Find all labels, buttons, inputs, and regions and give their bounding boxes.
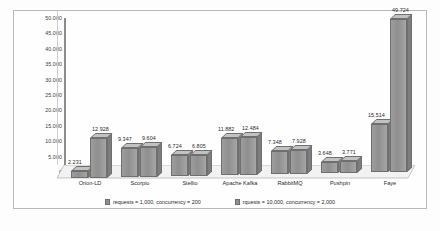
bar-side-face	[307, 145, 312, 174]
bar-group: 6.7246.805	[165, 18, 215, 172]
bar-2	[390, 19, 407, 172]
bar-group: 7.3487.928	[265, 18, 315, 172]
bar-value-label: 9.347	[118, 136, 132, 142]
bar-wrapper: 6.805	[190, 155, 207, 176]
bar-value-label: 2.231	[68, 159, 82, 165]
bar-value-label: 12.484	[242, 125, 259, 131]
bar-group: 15.51449.724	[365, 18, 415, 172]
bar-2	[190, 155, 207, 176]
y-axis: 50.00045.00040.00035.00030.00025.00020.0…	[18, 18, 62, 172]
bar-1	[71, 171, 88, 178]
category-label-apache-kafka: Apache Kafka	[223, 180, 258, 186]
y-axis-tick-label: 20.000	[22, 107, 62, 113]
bar-2	[140, 147, 157, 177]
legend-item-series-2: rquests = 10,000, concurrency = 2,000	[235, 199, 335, 205]
bar-wrapper: 6.724	[171, 155, 188, 176]
bar-group: 11.88212.484	[215, 18, 265, 172]
y-axis-tick-label: 10.000	[22, 138, 62, 144]
chart-plot-area: 2.23112.9289.3479.6046.7246.80511.88212.…	[65, 18, 415, 172]
y-axis-tick-label: 0	[22, 169, 62, 175]
y-axis-tick-label: 35.000	[22, 61, 62, 67]
bar-value-label: 9.604	[142, 135, 156, 141]
y-axis-tick-label: 15.000	[22, 123, 62, 129]
bar-value-label: 3.648	[318, 150, 332, 156]
bar-wrapper: 3.648	[321, 162, 338, 173]
bar-side-face	[157, 143, 162, 177]
chart-figure: 50.00045.00040.00035.00030.00025.00020.0…	[0, 0, 440, 231]
bar-value-label: 3.771	[342, 149, 356, 155]
category-label-scorpio: Scorpio	[131, 180, 150, 186]
bar-group: 2.23112.928	[65, 18, 115, 172]
y-axis-tick-label: 5.000	[22, 154, 62, 160]
bar-2	[90, 138, 107, 178]
category-label-pushpin: Pushpin	[330, 180, 350, 186]
legend-label: requests = 1,000, concurrency = 200	[113, 199, 201, 205]
bar-value-label: 7.348	[268, 139, 282, 145]
legend-item-series-1: requests = 1,000, concurrency = 200	[105, 199, 201, 205]
bar-1	[171, 155, 188, 176]
legend-label: rquests = 10,000, concurrency = 2,000	[243, 199, 335, 205]
bar-wrapper: 49.724	[390, 19, 407, 172]
bar-1	[221, 138, 238, 175]
y-axis-tick-label: 50.000	[22, 15, 62, 21]
bar-group: 9.3479.604	[115, 18, 165, 172]
bar-group: 3.6483.771	[315, 18, 365, 172]
bar-value-label: 6.724	[168, 143, 182, 149]
category-label-stellio: Stellio	[182, 180, 197, 186]
y-axis-tick-label: 40.000	[22, 46, 62, 52]
bar-wrapper: 12.928	[90, 138, 107, 178]
category-label-faye: Faye	[384, 180, 396, 186]
category-label-rabbitmq: RabbitMQ	[277, 180, 302, 186]
bar-wrapper: 7.348	[271, 151, 288, 174]
bar-side-face	[107, 134, 112, 178]
bar-wrapper: 2.231	[71, 171, 88, 178]
category-label-orion-ld: Orion-LD	[79, 180, 102, 186]
legend-swatch-icon	[235, 199, 240, 204]
bar-wrapper: 9.604	[140, 147, 157, 177]
bar-2	[290, 150, 307, 174]
bar-side-face	[257, 132, 262, 175]
bar-value-label: 12.928	[92, 126, 109, 132]
bar-wrapper: 11.882	[221, 138, 238, 175]
y-axis-depth-line	[57, 11, 58, 165]
y-axis-tick-label: 45.000	[22, 30, 62, 36]
bar-side-face	[407, 14, 412, 172]
bar-2	[340, 161, 357, 173]
bar-value-label: 6.805	[192, 143, 206, 149]
bar-1	[321, 162, 338, 173]
bar-wrapper: 3.771	[340, 161, 357, 173]
bar-1	[371, 124, 388, 172]
bar-2	[240, 137, 257, 175]
bar-wrapper: 7.928	[290, 150, 307, 174]
chart-legend: requests = 1,000, concurrency = 200 rque…	[13, 196, 427, 208]
bar-wrapper: 15.514	[371, 124, 388, 172]
bar-value-label: 15.514	[368, 112, 385, 118]
bar-1	[271, 151, 288, 174]
bar-value-label: 11.882	[218, 126, 234, 132]
bar-wrapper: 12.484	[240, 137, 257, 175]
y-axis-tick-label: 25.000	[22, 92, 62, 98]
bar-1	[121, 148, 138, 177]
legend-swatch-icon	[105, 199, 110, 204]
y-axis-tick-label: 30.000	[22, 77, 62, 83]
bar-value-label: 7.928	[292, 138, 306, 144]
bar-value-label: 49.724	[392, 7, 409, 13]
category-axis: Orion-LDScorpioStellioApache KafkaRabbit…	[65, 180, 417, 190]
bar-wrapper: 9.347	[121, 148, 138, 177]
bar-side-face	[357, 157, 362, 173]
